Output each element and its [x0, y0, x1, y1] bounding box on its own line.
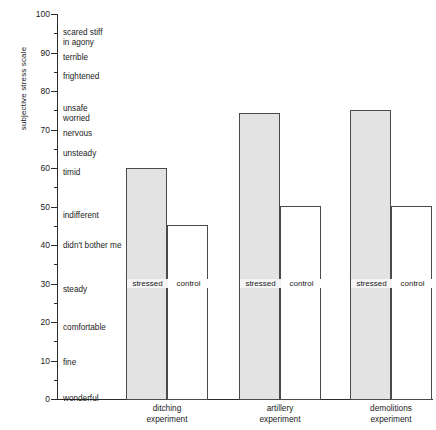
- scale-descriptor-terrible: terrible: [63, 53, 88, 63]
- y-tick-60: [51, 168, 58, 169]
- bar-artillery-stressed[interactable]: [239, 113, 280, 400]
- y-tick-20: [51, 322, 58, 323]
- scale-descriptor-unsafe: unsafe: [63, 104, 88, 114]
- y-tick-10: [51, 361, 58, 362]
- y-tick-label-100: 100: [24, 10, 50, 19]
- y-tick-90: [51, 53, 58, 54]
- bar-demolitions-stressed[interactable]: [350, 110, 391, 400]
- bar-label-ditching-stressed: stressed: [127, 279, 168, 288]
- bar-label-artillery-stressed: stressed: [240, 279, 281, 288]
- group-label-ditching: ditching experiment: [102, 403, 232, 424]
- y-tick-100: [51, 14, 58, 15]
- y-tick-label-50: 50: [24, 203, 50, 212]
- bar-demolitions-control[interactable]: [391, 206, 432, 400]
- y-tick-minor-75: [54, 110, 58, 111]
- y-tick-minor-45: [54, 226, 58, 227]
- bar-label-ditching-control: control: [168, 279, 209, 288]
- bar-label-demolitions-control: control: [392, 279, 433, 288]
- y-tick-label-60: 60: [24, 164, 50, 173]
- y-tick-minor-35: [54, 264, 58, 265]
- y-tick-label-10: 10: [24, 357, 50, 366]
- scale-descriptor-worried: worried: [63, 114, 90, 124]
- y-tick-label-40: 40: [24, 241, 50, 250]
- y-tick-80: [51, 91, 58, 92]
- y-tick-minor-85: [54, 72, 58, 73]
- scale-descriptor-scared-stiff: scared stiff: [63, 28, 102, 38]
- bar-label-artillery-control: control: [281, 279, 322, 288]
- y-tick-40: [51, 245, 58, 246]
- group-label-demolitions: demolitions experiment: [326, 403, 436, 424]
- y-tick-label-30: 30: [24, 280, 50, 289]
- scale-descriptor-in-agony: in agony: [63, 38, 94, 48]
- scale-descriptor-comfortable: comfortable: [63, 323, 106, 333]
- scale-descriptor-nervous: nervous: [63, 129, 92, 139]
- scale-descriptor-fine: fine: [63, 358, 76, 368]
- bar-artillery-control[interactable]: [280, 206, 321, 400]
- y-tick-0: [51, 399, 58, 400]
- y-tick-label-90: 90: [24, 49, 50, 58]
- y-tick-label-80: 80: [24, 87, 50, 96]
- scale-descriptor-unsteady: unsteady: [63, 149, 96, 159]
- y-tick-label-20: 20: [24, 318, 50, 327]
- bar-ditching-control[interactable]: [167, 225, 208, 400]
- scale-descriptor-frightened: frightened: [63, 72, 99, 82]
- scale-descriptor-indifferent: indifferent: [63, 211, 99, 221]
- y-tick-minor-55: [54, 187, 58, 188]
- y-tick-70: [51, 130, 58, 131]
- y-tick-50: [51, 207, 58, 208]
- scale-descriptor-wonderful: wonderful: [63, 394, 99, 404]
- scale-descriptor-didnt-bother-me: didn't bother me: [63, 241, 121, 251]
- y-tick-30: [51, 284, 58, 285]
- y-tick-label-70: 70: [24, 126, 50, 135]
- stress-scale-bar-chart: subjective stress scale 100 90 80 70 60: [0, 0, 436, 430]
- bar-label-demolitions-stressed: stressed: [351, 279, 392, 288]
- y-tick-minor-25: [54, 303, 58, 304]
- scale-descriptor-timid: timid: [63, 168, 80, 178]
- scale-descriptor-steady: steady: [63, 285, 87, 295]
- y-tick-minor-5: [54, 380, 58, 381]
- plot-area: 100 90 80 70 60 50 40 30 20 10 0 scared …: [0, 0, 436, 430]
- y-tick-label-0: 0: [24, 395, 50, 404]
- y-tick-minor-65: [54, 149, 58, 150]
- y-tick-minor-15: [54, 341, 58, 342]
- y-tick-minor-95: [54, 33, 58, 34]
